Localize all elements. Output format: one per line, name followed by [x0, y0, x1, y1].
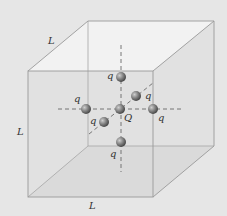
label-q-top: q [107, 71, 113, 81]
edge-label-left: L [17, 127, 24, 137]
charge-back [131, 91, 141, 101]
label-q-bottom: q [110, 149, 116, 159]
label-q-back: q [145, 91, 151, 101]
edge-label-bottom: L [89, 201, 96, 211]
label-q-left: q [74, 94, 80, 104]
charge-right [148, 104, 158, 114]
cube-diagram [0, 0, 227, 216]
charge-left [81, 104, 91, 114]
charge-front [99, 117, 109, 127]
label-Q: Q [124, 113, 132, 123]
label-q-front: q [90, 116, 96, 126]
edge-label-top: L [48, 36, 55, 46]
charge-top [116, 72, 126, 82]
label-q-right: q [158, 113, 164, 123]
charge-bottom [116, 137, 126, 147]
